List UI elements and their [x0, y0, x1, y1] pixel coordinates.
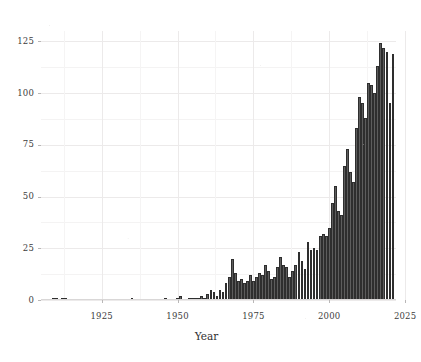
gridline-horizontal — [41, 300, 396, 301]
x-axis-tick-label: 1975 — [233, 312, 273, 321]
y-axis-tick-mark — [38, 145, 41, 146]
bar-series — [41, 31, 396, 300]
y-axis-tick-mark — [38, 248, 41, 249]
x-axis-tick-label: 1950 — [158, 312, 198, 321]
x-axis-tick-mark — [329, 300, 330, 303]
y-axis-tick-mark — [38, 300, 41, 301]
x-axis-tick-mark — [178, 300, 179, 303]
x-axis-tick-mark — [102, 300, 103, 303]
y-axis-tick-label: 25 — [23, 244, 34, 253]
x-axis-tick-mark — [405, 300, 406, 303]
bar — [392, 54, 395, 300]
y-axis-tick-mark — [38, 197, 41, 198]
y-axis-tick-label: 100 — [17, 89, 34, 98]
y-axis-tick-label: 0 — [28, 296, 34, 305]
x-axis-title: Year — [0, 330, 413, 342]
y-axis-tick-label: 50 — [23, 192, 34, 201]
gridline-vertical — [405, 31, 406, 300]
x-axis-baseline — [41, 299, 396, 300]
x-axis-tick-label: 1925 — [82, 312, 122, 321]
y-axis-tick-mark — [38, 41, 41, 42]
y-axis-tick-label: 125 — [17, 37, 34, 46]
x-axis-tick-label: 2000 — [309, 312, 349, 321]
y-axis-tick-mark — [38, 93, 41, 94]
y-axis-tick-label: 75 — [23, 140, 34, 149]
x-axis-tick-label: 2025 — [385, 312, 421, 321]
x-axis-tick-mark — [253, 300, 254, 303]
plot-area — [41, 31, 396, 300]
